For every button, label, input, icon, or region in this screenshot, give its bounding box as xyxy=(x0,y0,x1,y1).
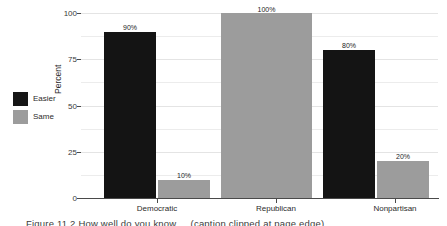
x-tick-mark-nonpartisan xyxy=(395,199,396,203)
bar-value-nonpartisan-same: 20% xyxy=(396,153,410,160)
x-axis-line xyxy=(81,198,439,199)
bar-nonpartisan-easier[interactable] xyxy=(323,50,375,198)
y-axis-tick-labels: 100 75 50 25 0 xyxy=(58,13,77,198)
x-tick-label-republican: Republican xyxy=(256,204,296,213)
x-tick-label-democratic: Democratic xyxy=(137,204,177,213)
y-tick-label-25: 25 xyxy=(68,147,77,156)
bar-democratic-easier[interactable] xyxy=(104,32,156,199)
bar-value-democratic-easier: 90% xyxy=(123,24,137,31)
figure-caption: Figure 11.2 How well do you know ... (ca… xyxy=(26,218,446,226)
bar-value-nonpartisan-easier: 80% xyxy=(342,42,356,49)
bar-nonpartisan-same[interactable] xyxy=(377,161,429,198)
y-tick-label-75: 75 xyxy=(68,55,77,64)
bar-value-democratic-same: 10% xyxy=(177,172,191,179)
legend-item-same: Same xyxy=(13,110,56,124)
legend-label-easier: Easier xyxy=(33,92,56,106)
x-tick-label-nonpartisan: Nonpartisan xyxy=(373,204,416,213)
y-tick-label-100: 100 xyxy=(64,9,77,18)
plot-area: 90% 10% 100% 80% 20% xyxy=(81,13,438,198)
figure-bar-chart: Easier Same Percent 100 75 50 25 0 xyxy=(0,0,447,226)
bar-value-republican-same: 100% xyxy=(258,6,276,13)
x-tick-mark-republican xyxy=(276,199,277,203)
chart-legend: Easier Same xyxy=(13,92,56,124)
legend-item-easier: Easier xyxy=(13,92,56,106)
y-tick-label-50: 50 xyxy=(68,101,77,110)
legend-swatch-same xyxy=(13,110,28,124)
x-tick-mark-democratic xyxy=(157,199,158,203)
bar-republican-same[interactable] xyxy=(221,13,312,198)
bar-democratic-same[interactable] xyxy=(158,180,210,199)
legend-swatch-easier xyxy=(13,92,28,106)
legend-label-same: Same xyxy=(33,110,54,124)
